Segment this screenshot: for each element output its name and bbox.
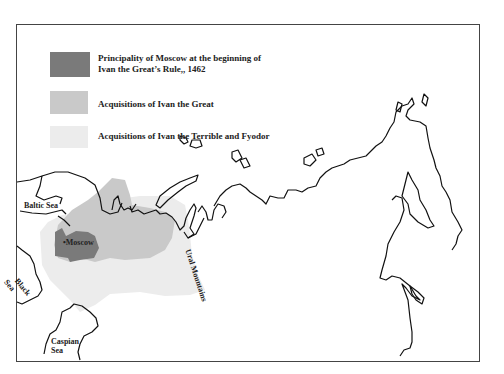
legend-swatch-ivan-terrible-fyodor [50, 126, 88, 148]
label-baltic-sea: Baltic Sea [24, 201, 58, 210]
legend-label-principality: Principality of Moscow at the beginning … [98, 53, 261, 75]
legend-label-ivan-great: Acquisitions of Ivan the Great [98, 99, 214, 110]
legend-label-ivan-terrible-fyodor: Acquisitions of Ivan the Terrible and Fy… [98, 131, 270, 142]
legend-swatch-principality [50, 52, 90, 77]
legend-swatch-ivan-great [50, 91, 88, 114]
label-caspian-sea: Caspian Sea [51, 337, 79, 355]
label-moscow: •Moscow [63, 238, 94, 247]
